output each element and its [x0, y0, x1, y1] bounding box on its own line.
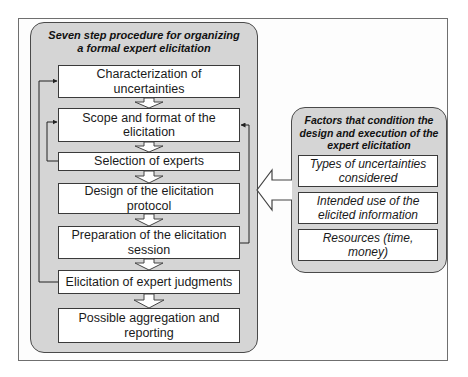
step-box-aggregation-reporting: Possible aggregation and reporting: [58, 308, 240, 343]
step-box-selection-experts: Selection of experts: [58, 152, 240, 171]
step-box-design-protocol: Design of the elicitation protocol: [58, 183, 240, 214]
step-box-preparation-session: Preparation of the elicitation session: [58, 226, 240, 259]
factors-panel-title: Factors that condition the design and ex…: [292, 114, 446, 152]
step-box-scope-format: Scope and format of the elicitation: [58, 108, 240, 142]
factor-box-intended-use: Intended use of the elicited information: [298, 192, 438, 224]
step-box-elicitation-judgments: Elicitation of expert judgments: [58, 270, 240, 294]
procedure-panel-title: Seven step procedure for organizing a fo…: [31, 29, 257, 55]
factor-box-uncertainty-types: Types of uncertainties considered: [298, 155, 438, 187]
factor-box-resources: Resources (time, money): [298, 229, 438, 261]
step-box-characterization: Characterization of uncertainties: [58, 65, 240, 98]
